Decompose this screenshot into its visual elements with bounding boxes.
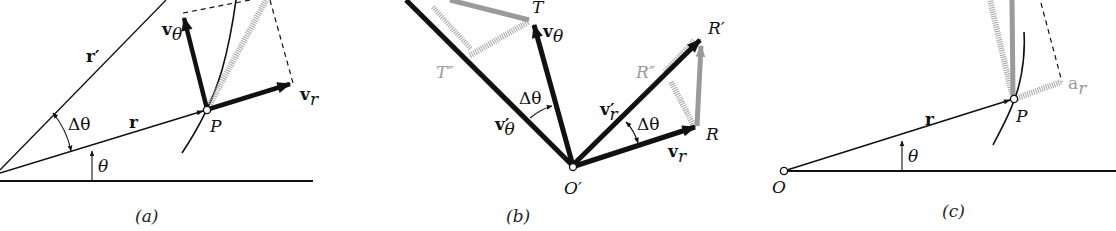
dashed-line-c — [1041, 3, 1062, 82]
label-r: R — [705, 124, 719, 144]
origin-o-prime — [570, 164, 577, 171]
hatched-velocity-a — [210, 0, 266, 104]
label-v-r-b: vr — [667, 141, 687, 166]
label-delta-theta-a: Δθ — [68, 114, 91, 134]
label-p-c: P — [1015, 106, 1028, 126]
label-r-c: r — [925, 109, 935, 129]
label-delta-theta-b-left: Δθ — [519, 88, 542, 108]
label-t: T — [532, 0, 545, 17]
panel-a: r′ Δθ r θ P vθ vr (a) — [0, 0, 319, 226]
label-r-a: r — [129, 112, 139, 132]
origin-o — [780, 167, 787, 174]
hatched-t-to-t2 — [469, 22, 528, 56]
label-delta-theta-b-right: Δθ — [637, 114, 660, 134]
point-p-c — [1010, 95, 1017, 102]
v-theta-vector-a — [184, 18, 207, 109]
figure-stage: r′ Δθ r θ P vθ vr (a) — [0, 0, 1116, 231]
label-a-r: ar — [1068, 73, 1087, 98]
label-p-a: P — [209, 116, 222, 136]
caption-b: (b) — [506, 206, 530, 226]
label-t-double-prime: T″ — [436, 62, 454, 82]
panel-c: r θ P O ar (c) — [772, 0, 1116, 221]
label-v-r-prime: v′r — [599, 99, 618, 124]
gray-accel-vector — [1012, 0, 1013, 97]
label-o-prime: O′ — [564, 178, 582, 198]
dashed-line-a2 — [270, 0, 293, 83]
trajectory-curve-a — [182, 0, 236, 153]
gray-line-to-t — [450, 0, 529, 20]
label-theta-a: θ — [98, 156, 108, 176]
v-r-vector-a — [209, 84, 290, 109]
trajectory-curve-c — [993, 32, 1024, 145]
gray-delta-vector-r — [697, 46, 701, 126]
hatched-accel-theta — [990, 0, 1012, 94]
r-vector-c — [787, 100, 1010, 170]
point-p-a — [203, 106, 210, 113]
hatched-a-r — [1017, 82, 1061, 98]
label-theta-c: θ — [908, 146, 918, 166]
label-r-prime: r′ — [86, 46, 100, 66]
caption-a: (a) — [135, 206, 158, 226]
polar-velocity-diagram: r′ Δθ r θ P vθ vr (a) — [0, 0, 1116, 231]
label-v-theta-prime: v′θ — [494, 114, 515, 139]
r-prime-line — [0, 0, 166, 170]
label-v-theta-a: vθ — [161, 19, 182, 44]
hatched-r-to-r2 — [671, 82, 693, 124]
label-v-theta-b: vθ — [542, 21, 563, 46]
label-r-double-prime: R″ — [635, 62, 656, 82]
label-v-r-a: vr — [299, 84, 319, 109]
label-o: O — [772, 177, 786, 197]
dashed-line-a1 — [183, 0, 250, 13]
panel-b: T T″ vθ Δθ v′θ O′ R′ R″ v′r Δθ R vr (b) — [406, 0, 725, 226]
label-r-prime: R′ — [707, 18, 725, 38]
caption-c: (c) — [942, 201, 965, 221]
